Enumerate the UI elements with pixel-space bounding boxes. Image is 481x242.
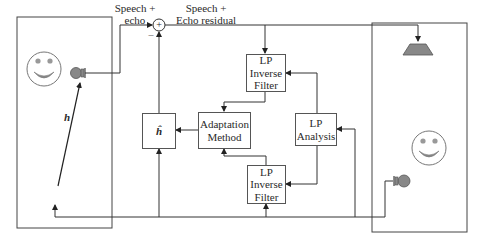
block-label: Method xyxy=(207,131,241,144)
residual-output-line xyxy=(165,25,418,41)
echo-path-arrow xyxy=(58,83,80,186)
speech-echo-line1: Speech + xyxy=(110,2,160,14)
minus-sign: – xyxy=(145,29,157,41)
block-label: Analysis xyxy=(297,130,336,143)
block-label: Filter xyxy=(255,191,279,204)
lp-inverse-filter-top-block: LP Inverse Filter xyxy=(246,54,286,92)
block-label: LP xyxy=(310,117,323,130)
far-end-talker-icon xyxy=(412,131,446,165)
far-end-signal-bus xyxy=(55,181,393,217)
speech-residual-line1: Speech + xyxy=(166,2,246,14)
adaptation-method-block: Adaptation Method xyxy=(198,112,251,149)
near-end-microphone-icon xyxy=(71,68,86,79)
analysis-to-top-filter xyxy=(286,73,317,113)
block-label: Filter xyxy=(254,79,278,92)
block-label: Inverse xyxy=(250,67,282,80)
block-label: LP xyxy=(260,54,273,67)
analysis-to-bottom-filter xyxy=(286,145,317,184)
lp-analysis-block: LP Analysis xyxy=(295,113,337,146)
block-label: LP xyxy=(260,166,273,179)
far-end-loudspeaker-icon xyxy=(403,44,433,55)
block-label: Inverse xyxy=(250,178,282,191)
speech-residual-line2: Echo residual xyxy=(166,14,246,26)
echo-path-label: h xyxy=(61,111,73,123)
far-end-microphone-icon xyxy=(394,175,410,187)
lp-inverse-filter-bottom-block: LP Inverse Filter xyxy=(247,165,286,204)
block-label: ĥ xyxy=(156,125,162,138)
inverse-filter-to-adaptation xyxy=(224,92,265,111)
block-label: Adaptation xyxy=(200,118,249,131)
bottom-filter-to-adaptation xyxy=(224,149,266,165)
echo-estimate-block: ĥ xyxy=(142,113,176,149)
bus-to-analysis xyxy=(337,129,355,217)
mic-signal-line xyxy=(85,25,152,73)
near-end-talker-icon xyxy=(27,52,61,86)
speech-residual-label: Speech + Echo residual xyxy=(166,2,246,26)
